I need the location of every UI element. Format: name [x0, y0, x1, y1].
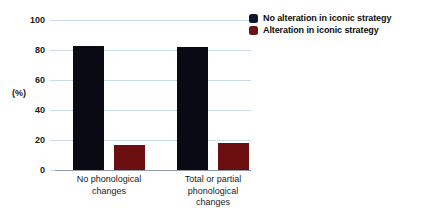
y-axis-title: (%) — [12, 88, 26, 98]
bar-1-0 — [177, 47, 208, 170]
legend-label-1: Alteration in iconic strategy — [263, 25, 379, 35]
tick-mark-0 — [50, 170, 55, 171]
tick-mark-100 — [50, 20, 55, 21]
bar-0-1 — [114, 145, 145, 171]
y-tick-label-40: 40 — [5, 105, 45, 115]
legend-label-0: No alteration in iconic strategy — [263, 13, 391, 23]
bar-1-1 — [218, 143, 249, 170]
chart-legend: No alteration in iconic strategyAlterati… — [249, 13, 391, 35]
gridline-100 — [55, 20, 251, 21]
y-tick-label-100: 100 — [5, 15, 45, 25]
legend-swatch-no-alteration — [249, 14, 258, 23]
plot-area: 020406080100 — [55, 20, 251, 170]
y-tick-label-20: 20 — [5, 135, 45, 145]
legend-item-1[interactable]: Alteration in iconic strategy — [249, 25, 391, 35]
gridline-0 — [55, 170, 251, 171]
y-tick-label-0: 0 — [5, 165, 45, 175]
y-tick-label-80: 80 — [5, 45, 45, 55]
legend-swatch-alteration — [249, 26, 258, 35]
tick-mark-40 — [50, 110, 55, 111]
y-tick-label-60: 60 — [5, 75, 45, 85]
x-category-label-1: Total or partial phonological changes — [158, 174, 268, 209]
tick-mark-80 — [50, 50, 55, 51]
tick-mark-20 — [50, 140, 55, 141]
bar-chart: (%) 020406080100 No phonological changes… — [0, 0, 424, 210]
x-category-label-0: No phonological changes — [54, 174, 164, 197]
tick-mark-60 — [50, 80, 55, 81]
legend-item-0[interactable]: No alteration in iconic strategy — [249, 13, 391, 23]
bar-0-0 — [73, 46, 104, 171]
